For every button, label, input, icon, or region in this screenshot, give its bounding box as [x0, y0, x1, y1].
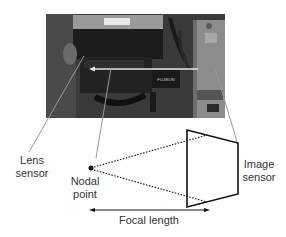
lens-brand-text: FUJINON — [157, 77, 174, 82]
camera-photo: FUJINON — [46, 14, 225, 118]
focal-length-label: Focal length — [110, 214, 188, 227]
image-sensor-label-line1: Image — [240, 158, 278, 171]
nodal-point-dot — [89, 166, 94, 171]
image-sensor-label-line2: sensor — [240, 171, 278, 184]
image-sensor-plane — [187, 130, 238, 207]
focal-length-arrow — [89, 208, 210, 212]
image-sensor-label: Image sensor — [240, 158, 278, 184]
ray-top — [94, 135, 207, 167]
lens-sensor-label: Lens sensor — [14, 154, 50, 180]
nodal-point-label-line2: point — [67, 188, 103, 201]
ray-bottom — [94, 170, 207, 202]
lens-sensor-label-line2: sensor — [14, 167, 50, 180]
figure-canvas: FUJINON — [0, 0, 286, 237]
nodal-point-label-line1: Nodal — [67, 175, 103, 188]
lens-sensor-label-line1: Lens — [14, 154, 50, 167]
nodal-point-label: Nodal point — [67, 175, 103, 201]
